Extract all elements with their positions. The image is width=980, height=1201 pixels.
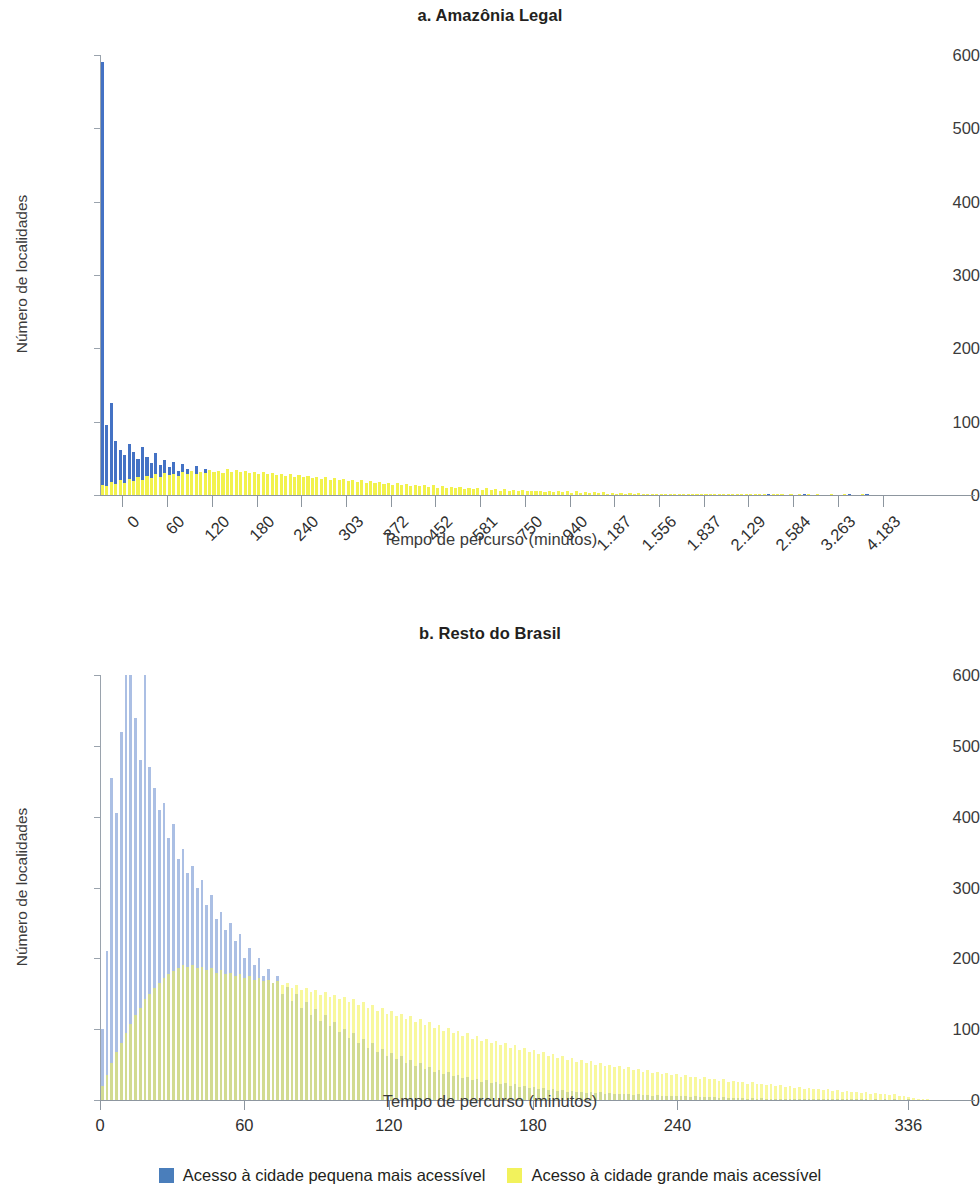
chart-b-bar (110, 778, 113, 1100)
chart-b-bar (239, 974, 242, 1100)
chart-a-bar (315, 477, 318, 495)
chart-a-bar (132, 481, 135, 495)
chart-a-bar (101, 485, 104, 495)
chart-b-bar (229, 973, 232, 1101)
chart-a-x-tick-mark (793, 496, 794, 507)
chart-b-x-tick-label: 180 (519, 1116, 547, 1135)
chart-a-bar (168, 475, 171, 495)
chart-b-bar (461, 1036, 464, 1100)
chart-a-x-tick-mark (614, 496, 615, 507)
chart-b-bar (262, 981, 265, 1100)
chart-b-bar (210, 968, 213, 1100)
chart-b-bar (196, 968, 199, 1100)
chart-b-bar (272, 983, 275, 1100)
chart-b-bar (400, 1014, 403, 1100)
chart-b-bar (395, 1016, 398, 1100)
chart-a-x-tick-mark (212, 496, 213, 507)
chart-b-bar (419, 1019, 422, 1100)
chart-b-bar (186, 967, 189, 1100)
chart-a-y-tick-label: 500 (892, 119, 980, 138)
chart-b-bar (153, 988, 156, 1100)
chart-a-bar (436, 488, 439, 495)
chart-a-bar (172, 474, 175, 495)
chart-b-bar (224, 974, 227, 1100)
chart-b-bar (139, 1008, 142, 1100)
chart-a-bar (177, 476, 180, 495)
legend-item-small_city[interactable]: Acesso à cidade pequena mais acessível (159, 1166, 486, 1185)
chart-b-bar (357, 1005, 360, 1100)
chart-a-bar (119, 480, 122, 495)
chart-a-bar (266, 474, 269, 495)
chart-b-bar (348, 1002, 351, 1100)
chart-a-bar (204, 473, 207, 495)
chart-b-title: b. Resto do Brasil (0, 624, 980, 643)
chart-b-bar (433, 1028, 436, 1100)
chart-a-bar (467, 488, 470, 495)
chart-a-x-tick-mark (748, 496, 749, 507)
chart-b-bar (362, 1002, 365, 1100)
chart-b-bar (324, 992, 327, 1100)
chart-b-bar (310, 992, 313, 1100)
chart-panel-a: a. Amazônia Legal Número de localidades … (0, 0, 980, 610)
chart-b-bar (163, 978, 166, 1100)
chart-a-bar (297, 475, 300, 495)
chart-a-bar (280, 474, 283, 495)
chart-a-bar (239, 472, 242, 495)
chart-a-x-tick-mark (838, 496, 839, 507)
chart-a-bar (441, 486, 444, 495)
chart-b-bars (100, 675, 930, 1100)
chart-panel-b: b. Resto do Brasil Número de localidades… (0, 610, 980, 1150)
chart-a-bar (235, 470, 238, 495)
chart-b-bar (281, 985, 284, 1100)
chart-a-bar (405, 484, 408, 495)
chart-a-y-tick-label: 400 (892, 192, 980, 211)
chart-a-bar (289, 474, 292, 495)
chart-a-y-tick-label: 600 (892, 46, 980, 65)
chart-a-bar (338, 480, 341, 495)
chart-b-bar (452, 1033, 455, 1100)
chart-a-bar (262, 472, 265, 495)
chart-a-x-tick-mark (435, 496, 436, 507)
chart-a-bar (159, 477, 162, 495)
legend-item-large_city[interactable]: Acesso à cidade grande mais acessível (507, 1166, 821, 1185)
chart-b-bar (243, 978, 246, 1100)
chart-a-bar (253, 472, 256, 495)
chart-a-bar (123, 483, 126, 495)
chart-b-bar (125, 1033, 128, 1100)
chart-a-bar (445, 488, 448, 495)
chart-a-bar (257, 474, 260, 495)
chart-a-bar (150, 478, 153, 495)
chart-b-bar (329, 997, 332, 1100)
chart-b-x-tick-label: 0 (95, 1116, 104, 1135)
chart-b-bar (390, 1011, 393, 1100)
chart-b-bar (476, 1036, 479, 1100)
chart-b-bar (319, 995, 322, 1100)
chart-b-bar (352, 999, 355, 1100)
chart-a-x-axis-line (100, 495, 975, 496)
legend-label-large_city: Acesso à cidade grande mais acessível (531, 1166, 821, 1185)
chart-a-bar (226, 469, 229, 495)
chart-b-bar (428, 1022, 431, 1100)
chart-b-bar (144, 999, 147, 1100)
chart-b-x-tick-label: 60 (235, 1116, 253, 1135)
legend-label-small_city: Acesso à cidade pequena mais acessível (183, 1166, 486, 1185)
chart-b-bar (201, 967, 204, 1100)
chart-a-x-tick-mark (122, 496, 123, 507)
chart-a-bar (284, 476, 287, 495)
chart-a-bar (423, 485, 426, 495)
chart-a-bar (400, 485, 403, 495)
chart-a-bar (154, 474, 157, 495)
chart-a-bar (186, 474, 189, 495)
chart-a-bar (347, 481, 350, 495)
chart-b-bar (129, 1024, 132, 1101)
chart-b-bar (134, 1015, 137, 1100)
chart-b-bar (485, 1039, 488, 1100)
chart-b-bar (295, 985, 298, 1100)
chart-b-bar (457, 1031, 460, 1100)
chart-a-bar (378, 482, 381, 495)
chart-b-bar (466, 1033, 469, 1100)
chart-a-bar (195, 474, 198, 495)
chart-b-x-axis-title: Tempo de percurso (minutos) (0, 1092, 980, 1111)
chart-a-bar (476, 488, 479, 495)
chart-b-bar (376, 1011, 379, 1100)
